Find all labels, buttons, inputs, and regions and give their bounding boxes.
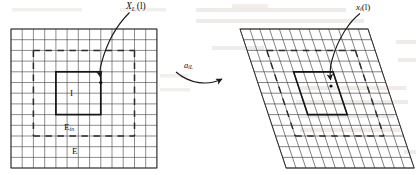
- left-square-lattice: [11, 13, 157, 169]
- label-aiL-map: aiL: [184, 60, 193, 70]
- mapping-arrow: [176, 72, 222, 83]
- left-lattice-point: [99, 81, 102, 84]
- left-pointer-arrow: [100, 13, 130, 78]
- label-region-E: E: [72, 146, 78, 156]
- right-sheared-lattice: [240, 29, 414, 168]
- lattice-transformation-figure: [0, 0, 418, 175]
- label-region-Ein: Ein: [64, 122, 74, 132]
- label-xi-of-l: xi(l): [356, 2, 370, 12]
- right-lattice-point: [329, 84, 332, 87]
- label-XL-of-l: XL(l): [126, 1, 146, 12]
- label-region-I: I: [70, 88, 73, 98]
